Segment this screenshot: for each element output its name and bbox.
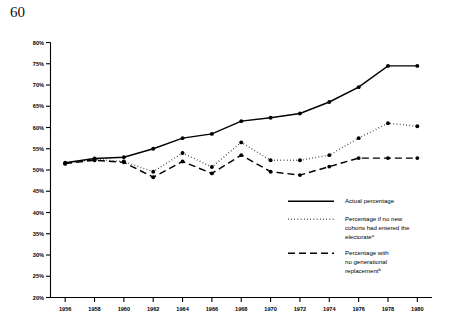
chart-data-point: [239, 140, 243, 144]
chart-data-point: [327, 165, 331, 169]
x-axis-tick-label: 1968: [235, 306, 247, 312]
chart-data-point: [63, 162, 67, 166]
x-axis-tick-label: 1966: [206, 306, 218, 312]
chart-data-point: [151, 175, 155, 179]
chart-data-point: [357, 85, 361, 89]
chart-data-point: [327, 153, 331, 157]
legend-item: Actual percentage: [288, 197, 395, 204]
chart-data-point: [386, 64, 390, 68]
chart-figure: 20%25%30%35%40%45%50%55%60%65%70%75%80% …: [0, 0, 453, 327]
line-chart: 20%25%30%35%40%45%50%55%60%65%70%75%80% …: [0, 0, 453, 327]
y-axis-tick-label: 30%: [33, 252, 44, 258]
y-axis-ticks: [46, 43, 51, 298]
x-axis-tick-label: 1980: [411, 306, 423, 312]
chart-data-point: [239, 119, 243, 123]
chart-data-point: [210, 171, 214, 175]
chart-data-point: [122, 160, 126, 164]
chart-line-solid: [65, 66, 417, 163]
x-axis-tick-label: 1976: [352, 306, 364, 312]
y-axis-tick-labels: 20%25%30%35%40%45%50%55%60%65%70%75%80%: [33, 40, 44, 301]
legend-label: Actual percentage: [345, 197, 395, 204]
chart-data-point: [386, 121, 390, 125]
chart-data-point: [415, 156, 419, 160]
chart-data-point: [298, 158, 302, 162]
chart-data-point: [210, 132, 214, 136]
chart-data-point: [415, 124, 419, 128]
chart-data-point: [210, 165, 214, 169]
y-axis-tick-label: 40%: [33, 210, 44, 216]
x-axis-tick-labels: 1956195819601962196419661968197019721974…: [59, 306, 424, 312]
legend-label: electoratea: [345, 233, 375, 240]
legend-label: Percentage if no new: [345, 215, 403, 222]
chart-data-point: [298, 112, 302, 116]
x-axis-tick-label: 1960: [118, 306, 130, 312]
y-axis-tick-label: 60%: [33, 125, 44, 131]
y-axis-tick-label: 65%: [33, 103, 44, 109]
x-axis-ticks: [65, 298, 417, 303]
chart-data-point: [181, 160, 185, 164]
x-axis-tick-label: 1956: [59, 306, 71, 312]
legend-label: Percentage with: [345, 249, 389, 256]
legend-label: no generational: [345, 258, 387, 265]
y-axis-tick-label: 55%: [33, 146, 44, 152]
chart-data-point: [327, 100, 331, 104]
chart-data-point: [357, 136, 361, 140]
x-axis-tick-label: 1964: [176, 306, 189, 312]
chart-data-point: [415, 64, 419, 68]
legend-footnote-marker: a: [372, 233, 375, 238]
chart-data-point: [269, 170, 273, 174]
chart-line-dashed: [65, 155, 417, 177]
y-axis-tick-label: 70%: [33, 82, 44, 88]
chart-data-point: [269, 116, 273, 120]
x-axis-tick-label: 1958: [88, 306, 100, 312]
x-axis-tick-label: 1974: [323, 306, 336, 312]
chart-data-point: [386, 156, 390, 160]
legend-item: Percentage withno generationalreplacemen…: [288, 249, 389, 274]
chart-data-point: [181, 151, 185, 155]
chart-legend: Actual percentagePercentage if no newcoh…: [288, 197, 410, 274]
chart-data-point: [239, 153, 243, 157]
x-axis-tick-label: 1970: [264, 306, 276, 312]
chart-data-point: [151, 170, 155, 174]
chart-data-point: [181, 136, 185, 140]
chart-data-point: [93, 158, 97, 162]
y-axis-tick-label: 50%: [33, 167, 44, 173]
chart-data-point: [298, 173, 302, 177]
x-axis-tick-label: 1978: [382, 306, 394, 312]
y-axis-tick-label: 80%: [33, 40, 44, 46]
y-axis-tick-label: 45%: [33, 188, 44, 194]
x-axis-tick-label: 1972: [294, 306, 306, 312]
x-axis-tick-label: 1962: [147, 306, 159, 312]
chart-data-point: [357, 156, 361, 160]
chart-data-point: [122, 155, 126, 159]
legend-footnote-marker: b: [379, 267, 382, 272]
legend-label: replacementb: [345, 267, 382, 274]
chart-data-point: [269, 158, 273, 162]
y-axis-tick-label: 20%: [33, 295, 44, 301]
chart-data-point: [151, 147, 155, 151]
y-axis-tick-label: 35%: [33, 231, 44, 237]
chart-line-dotted: [65, 123, 417, 171]
y-axis-tick-label: 75%: [33, 61, 44, 67]
legend-label: cohorts had entered the: [345, 224, 410, 231]
legend-item: Percentage if no newcohorts had entered …: [288, 215, 410, 240]
y-axis-tick-label: 25%: [33, 273, 44, 279]
